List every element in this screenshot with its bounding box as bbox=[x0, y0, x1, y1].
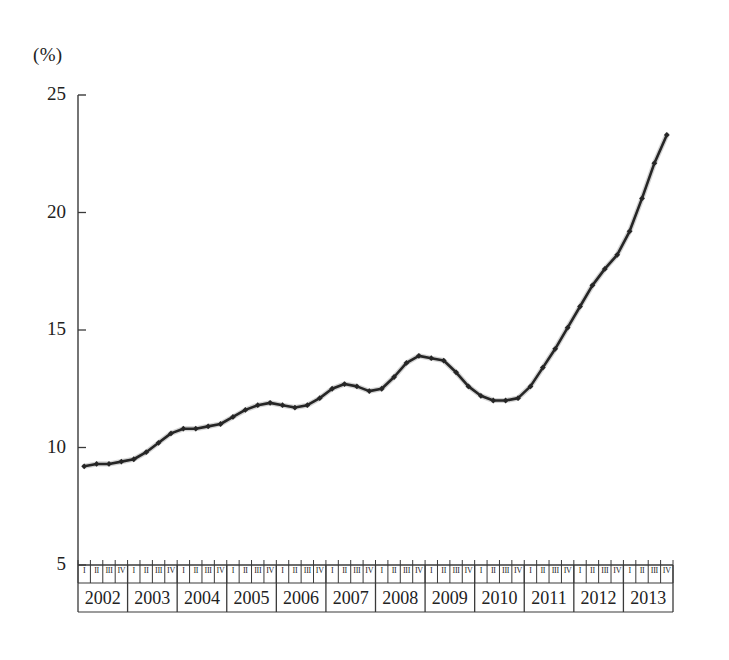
x-axis-year-label: 2008 bbox=[376, 588, 426, 609]
plot-area bbox=[0, 0, 729, 660]
x-axis-quarter-label: III bbox=[400, 566, 412, 576]
x-axis-year-label: 2004 bbox=[177, 588, 227, 609]
data-series-line bbox=[81, 132, 669, 469]
x-axis-quarter-label: IV bbox=[314, 566, 326, 576]
x-axis-quarter-label: II bbox=[636, 566, 648, 576]
x-axis-quarter-label: I bbox=[524, 566, 536, 576]
x-axis-quarter-label: I bbox=[128, 566, 140, 576]
x-axis-quarter-label: I bbox=[326, 566, 338, 576]
x-axis-quarter-label: IV bbox=[611, 566, 623, 576]
x-axis-quarter-label: III bbox=[450, 566, 462, 576]
x-axis-year-label: 2010 bbox=[475, 588, 525, 609]
x-axis-year-label: 2005 bbox=[227, 588, 277, 609]
x-axis-quarter-label: IV bbox=[115, 566, 127, 576]
x-axis-year-label: 2003 bbox=[128, 588, 178, 609]
x-axis-quarter-label: II bbox=[437, 566, 449, 576]
x-axis-quarter-label: III bbox=[648, 566, 660, 576]
x-axis-quarter-label: IV bbox=[462, 566, 474, 576]
x-axis-quarter-label: II bbox=[190, 566, 202, 576]
x-axis-quarter-label: III bbox=[202, 566, 214, 576]
x-axis-quarter-label: I bbox=[376, 566, 388, 576]
x-axis-quarter-label: III bbox=[549, 566, 561, 576]
x-axis-quarter-label: IV bbox=[264, 566, 276, 576]
x-axis-quarter-label: II bbox=[537, 566, 549, 576]
x-axis-year-label: 2013 bbox=[623, 588, 673, 609]
x-axis-year-label: 2012 bbox=[574, 588, 624, 609]
x-axis-quarter-label: II bbox=[239, 566, 251, 576]
x-axis-year-label: 2002 bbox=[78, 588, 128, 609]
x-axis-quarter-label: I bbox=[425, 566, 437, 576]
x-axis-quarter-label: III bbox=[599, 566, 611, 576]
x-axis-quarter-label: I bbox=[227, 566, 239, 576]
x-axis-quarter-label: III bbox=[351, 566, 363, 576]
x-axis-year-label: 2011 bbox=[524, 588, 574, 609]
y-axis-tick-label: 5 bbox=[32, 553, 66, 575]
x-axis-quarter-label: III bbox=[252, 566, 264, 576]
chart-svg bbox=[0, 0, 729, 660]
x-axis-quarter-label: I bbox=[623, 566, 635, 576]
x-axis-quarter-label: I bbox=[475, 566, 487, 576]
y-axis-tick-label: 15 bbox=[32, 318, 66, 340]
x-axis-quarter-label: III bbox=[499, 566, 511, 576]
x-axis-quarter-label: II bbox=[289, 566, 301, 576]
chart-axes bbox=[78, 95, 86, 565]
x-axis-quarter-label: IV bbox=[561, 566, 573, 576]
chart-container: (%) 252015105 IIIIIIIVIIIIIIIVIIIIIIIVII… bbox=[0, 0, 729, 660]
x-axis-quarter-label: III bbox=[301, 566, 313, 576]
x-axis-quarter-label: II bbox=[487, 566, 499, 576]
x-axis-year-label: 2007 bbox=[326, 588, 376, 609]
x-axis-quarter-label: II bbox=[586, 566, 598, 576]
y-axis-tick-label: 20 bbox=[32, 201, 66, 223]
x-axis-quarter-label: II bbox=[140, 566, 152, 576]
x-axis-quarter-label: III bbox=[152, 566, 164, 576]
x-axis-quarter-label: IV bbox=[165, 566, 177, 576]
x-axis-quarter-label: II bbox=[338, 566, 350, 576]
x-axis-quarter-label: IV bbox=[363, 566, 375, 576]
x-axis-quarter-label: IV bbox=[413, 566, 425, 576]
y-axis-tick-label: 10 bbox=[32, 436, 66, 458]
y-axis-tick-label: 25 bbox=[32, 83, 66, 105]
x-axis-quarter-label: IV bbox=[214, 566, 226, 576]
x-axis-quarter-label: IV bbox=[512, 566, 524, 576]
x-axis-quarter-label: II bbox=[90, 566, 102, 576]
x-axis-quarter-label: I bbox=[177, 566, 189, 576]
x-axis-quarter-label: I bbox=[574, 566, 586, 576]
x-axis-year-label: 2009 bbox=[425, 588, 475, 609]
x-axis-quarter-label: II bbox=[388, 566, 400, 576]
x-axis-year-label: 2006 bbox=[276, 588, 326, 609]
x-axis-quarter-label: III bbox=[103, 566, 115, 576]
x-axis-quarter-label: IV bbox=[661, 566, 673, 576]
x-axis-quarter-label: I bbox=[78, 566, 90, 576]
x-axis-quarter-label: I bbox=[276, 566, 288, 576]
